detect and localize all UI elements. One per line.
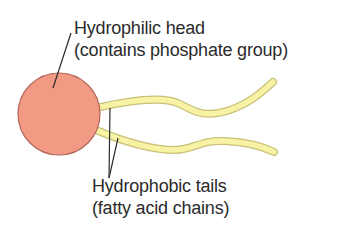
tail-leader-line-2	[109, 138, 118, 178]
fatty-acid-tails	[96, 82, 274, 152]
tail-label-line1: Hydrophobic tails	[92, 175, 229, 197]
hydrophilic-head	[18, 73, 100, 155]
head-label-line2: (contains phosphate group)	[74, 39, 288, 61]
bottom-tail	[96, 130, 274, 152]
hydrophilic-head-label: Hydrophilic head (contains phosphate gro…	[74, 17, 288, 61]
head-label-line1: Hydrophilic head	[74, 17, 288, 39]
tail-leader-line-1	[109, 108, 110, 178]
hydrophobic-tails-label: Hydrophobic tails (fatty acid chains)	[92, 175, 229, 219]
tail-label-line2: (fatty acid chains)	[92, 197, 229, 219]
